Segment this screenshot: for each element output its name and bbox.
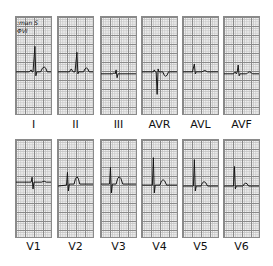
ecg-lead-panel-avr: [141, 16, 178, 115]
lead-label: V4: [141, 240, 178, 253]
ecg-lead-panel-v3: [100, 139, 137, 238]
ecg-lead-panel-v6: [223, 139, 260, 238]
ecg-trace: [58, 140, 93, 237]
handwritten-note-line1: :man S: [17, 19, 38, 26]
handwritten-note-line2: ΦVI: [17, 27, 28, 34]
lead-label: V1: [15, 240, 52, 253]
ecg-trace: [224, 17, 259, 114]
lead-label: I: [15, 118, 52, 131]
ecg-lead-panel-iii: [100, 16, 137, 115]
ecg-lead-panel-v2: [57, 139, 94, 238]
ecg-trace: [16, 140, 51, 237]
lead-label: V5: [182, 240, 219, 253]
ecg-trace: [142, 140, 177, 237]
ecg-lead-panel-v5: [182, 139, 219, 238]
lead-label: II: [57, 118, 94, 131]
lead-label: AVF: [223, 118, 260, 131]
lead-label: V6: [223, 240, 260, 253]
lead-label: III: [100, 118, 137, 131]
ecg-lead-panel-ii: [57, 16, 94, 115]
lead-label: AVL: [182, 118, 219, 131]
ecg-trace: [58, 17, 93, 114]
ecg-trace: [183, 140, 218, 237]
ecg-trace: [224, 140, 259, 237]
ecg-trace: [183, 17, 218, 114]
ecg-lead-panel-v1: [15, 139, 52, 238]
ecg-lead-panel-v4: [141, 139, 178, 238]
ecg-trace: [101, 140, 136, 237]
lead-label: V3: [100, 240, 137, 253]
ecg-lead-panel-avf: [223, 16, 260, 115]
lead-label: V2: [57, 240, 94, 253]
ecg-lead-panel-avl: [182, 16, 219, 115]
lead-label: AVR: [141, 118, 178, 131]
ecg-trace: [142, 17, 177, 114]
ecg-trace: [101, 17, 136, 114]
